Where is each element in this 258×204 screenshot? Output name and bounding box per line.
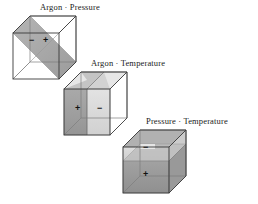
cube-pressure-temperature-geometry [123, 130, 186, 193]
cube-argon-temperature-geometry [64, 72, 127, 135]
sign-cube1-positive: + [43, 36, 48, 45]
cube-argon-pressure-geometry [13, 16, 76, 79]
sign-cube3-positive: + [143, 170, 148, 179]
cube-label-argon-temperature: Argon · Temperature [91, 58, 165, 68]
sign-cube1-negative: − [29, 36, 34, 45]
sign-cube2-positive: + [75, 104, 80, 113]
interaction-cubes-figure: Argon · Pressure Argon · Temperature Pre… [0, 0, 258, 204]
sign-cube2-negative: − [97, 104, 102, 113]
sign-cube3-negative: − [143, 143, 148, 152]
cubes-vector-canvas [0, 0, 258, 204]
cube-label-argon-pressure: Argon · Pressure [40, 2, 100, 12]
cube-label-pressure-temperature: Pressure · Temperature [146, 116, 228, 126]
